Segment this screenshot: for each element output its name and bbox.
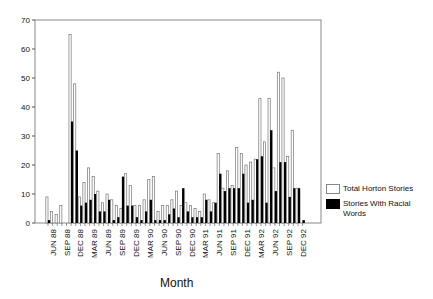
y-tick-label: 0	[26, 219, 31, 228]
x-tick-label: JUN 90	[160, 228, 169, 255]
bar-total	[97, 191, 99, 223]
x-tick-label: JUN 92	[271, 228, 280, 255]
bar-total	[138, 206, 140, 223]
bar-total	[115, 206, 117, 223]
bar-racial	[159, 220, 161, 223]
bar-total	[231, 185, 233, 223]
y-tick-label: 10	[21, 190, 30, 199]
bar-racial	[252, 200, 254, 223]
bar-total	[60, 206, 62, 223]
bar-total	[240, 153, 242, 223]
bar-total	[282, 78, 284, 223]
bar-total	[222, 188, 224, 223]
bar-racial	[150, 200, 152, 223]
x-tick-label: DEC 90	[188, 228, 197, 257]
bar-total	[143, 200, 145, 223]
bar-racial	[164, 220, 166, 223]
bar-total	[185, 203, 187, 223]
bar-total	[245, 165, 247, 223]
bar-total	[50, 211, 52, 223]
bar-total	[268, 98, 270, 223]
bar-racial	[85, 203, 87, 223]
bar-total	[78, 197, 80, 223]
bar-total	[199, 211, 201, 223]
bar-racial	[275, 191, 277, 223]
bar-racial	[136, 217, 138, 223]
bar-racial	[177, 217, 179, 223]
bar-racial	[298, 188, 300, 223]
bar-total	[74, 84, 76, 223]
bar-chart: 010203040506070 JUN 88SEP 88DEC 88MAR 89…	[0, 0, 433, 299]
bar-total	[217, 153, 219, 223]
y-tick-label: 20	[21, 161, 30, 170]
legend-item-total: Total Horton Stories	[326, 184, 433, 194]
bar-total	[101, 203, 103, 223]
x-tick-label: MAR 89	[90, 228, 99, 257]
bar-racial	[182, 188, 184, 223]
bar-total	[129, 185, 131, 223]
bar-racial	[238, 188, 240, 223]
bar-total	[134, 206, 136, 223]
bar-total	[296, 188, 298, 223]
bar-total	[92, 177, 94, 223]
bar-total	[236, 148, 238, 223]
legend: Total Horton Stories Stories With Racial…	[326, 184, 433, 224]
bar-total	[291, 130, 293, 223]
bar-racial	[302, 220, 304, 223]
bar-racial	[242, 174, 244, 223]
bar-total	[69, 35, 71, 224]
x-tick-label: SEP 90	[174, 228, 183, 256]
bar-racial	[214, 203, 216, 223]
black-swatch-icon	[326, 199, 340, 209]
bar-total	[254, 159, 256, 223]
x-tick-label: DEC 92	[299, 228, 308, 257]
bar-racial	[122, 177, 124, 223]
bar-total	[106, 194, 108, 223]
bar-total	[152, 177, 154, 223]
bar-racial	[201, 217, 203, 223]
bar-total	[208, 200, 210, 223]
bar-racial	[103, 211, 105, 223]
x-tick-label: MAR 91	[201, 228, 210, 257]
bar-racial	[293, 188, 295, 223]
bar-total	[189, 206, 191, 223]
x-tick-label: MAR 90	[146, 228, 155, 257]
bar-racial	[219, 174, 221, 223]
bar-racial	[127, 206, 129, 223]
bar-racial	[140, 220, 142, 223]
x-tick-label: DEC 88	[76, 228, 85, 257]
bar-racial	[168, 214, 170, 223]
x-tick-label: JUN 88	[49, 228, 58, 255]
y-tick-label: 50	[21, 74, 30, 83]
bar-racial	[224, 191, 226, 223]
bar-racial	[210, 211, 212, 223]
bar-racial	[289, 197, 291, 223]
bar-racial	[76, 151, 78, 224]
bar-total	[287, 156, 289, 223]
bar-total	[273, 168, 275, 223]
bar-racial	[187, 211, 189, 223]
bar-racial	[48, 220, 50, 223]
y-tick-label: 60	[21, 45, 30, 54]
x-axis-title: Month	[160, 276, 193, 290]
bar-total	[212, 203, 214, 223]
bar-racial	[131, 206, 133, 223]
bar-racial	[228, 188, 230, 223]
bar-total	[46, 197, 48, 223]
bar-total	[83, 182, 85, 223]
legend-label: Stories With Racial Words	[343, 199, 433, 219]
bar-total	[166, 206, 168, 223]
bar-total	[194, 209, 196, 224]
bar-racial	[256, 159, 258, 223]
bar-total	[55, 214, 57, 223]
bar-racial	[261, 156, 263, 223]
bar-total	[111, 200, 113, 223]
white-swatch-icon	[326, 184, 340, 194]
bar-total	[148, 180, 150, 224]
bar-racial	[233, 188, 235, 223]
bar-racial	[284, 162, 286, 223]
x-tick-label: SEP 92	[285, 228, 294, 256]
bar-total	[125, 174, 127, 223]
bar-racial	[205, 200, 207, 223]
y-tick-label: 30	[21, 132, 30, 141]
